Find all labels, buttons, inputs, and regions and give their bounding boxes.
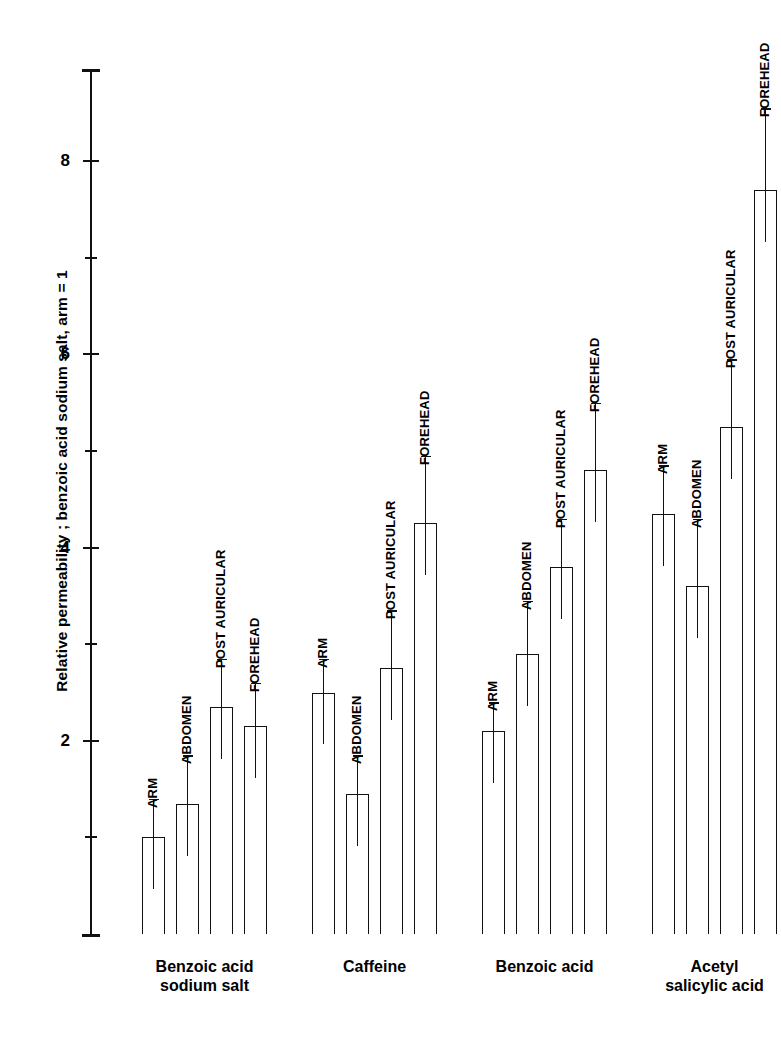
bar-3-2 (720, 427, 743, 934)
group-caption-1: Caffeine (290, 958, 460, 977)
bar-label-2-2: POST AURICULAR (553, 409, 568, 528)
bar-2-2 (550, 567, 573, 934)
y-tick-4 (83, 547, 99, 549)
y-tick-label-8: 8 (46, 152, 70, 169)
bar-label-0-2: POST AURICULAR (213, 549, 228, 668)
bar-label-0-3: FOREHEAD (247, 617, 262, 692)
bar-label-1-1: ABDOMEN (349, 696, 364, 765)
y-tick-label-6: 6 (46, 345, 70, 362)
group-caption-2: Benzoic acid (460, 958, 630, 977)
y-tick-label-2: 2 (46, 732, 70, 749)
y-tick-3 (85, 643, 97, 645)
error-bar-1-3 (425, 456, 427, 576)
error-bar-2-2 (561, 519, 563, 619)
bar-label-1-0: ARM (315, 637, 330, 667)
error-bar-1-2 (391, 610, 393, 720)
y-tick-8 (83, 160, 99, 162)
error-bar-1-1 (357, 755, 359, 846)
bar-label-0-1: ABDOMEN (179, 696, 194, 765)
bar-label-3-1: ABDOMEN (689, 459, 704, 528)
bar-3-0 (652, 514, 675, 934)
error-bar-1-0 (323, 659, 325, 745)
bar-label-0-0: ARM (145, 778, 160, 808)
error-bar-2-0 (493, 702, 495, 783)
y-tick-6 (83, 353, 99, 355)
error-bar-3-3 (765, 108, 767, 242)
y-tick-5 (85, 450, 97, 452)
error-bar-3-2 (731, 359, 733, 479)
y-axis-top-cap (82, 69, 100, 72)
bar-1-3 (414, 523, 437, 934)
bar-label-2-0: ARM (485, 681, 500, 711)
error-bar-0-2 (221, 659, 223, 759)
bar-2-3 (584, 470, 607, 934)
y-tick-1 (85, 836, 97, 838)
y-axis-line (90, 70, 92, 936)
y-tick-label-4: 4 (46, 539, 70, 556)
group-caption-0: Benzoic acid sodium salt (120, 958, 290, 996)
bar-label-3-3: FOREHEAD (757, 43, 772, 118)
y-axis-bottom-cap (82, 934, 100, 937)
bar-label-2-1: ABDOMEN (519, 541, 534, 610)
y-tick-7 (85, 257, 97, 259)
bar-3-1 (686, 586, 709, 934)
error-bar-0-1 (187, 755, 189, 855)
bar-3-3 (754, 190, 777, 934)
bar-label-1-3: FOREHEAD (417, 390, 432, 465)
error-bar-2-1 (527, 601, 529, 706)
error-bar-3-1 (697, 519, 699, 639)
bar-label-3-0: ARM (655, 444, 670, 474)
y-tick-2 (83, 740, 99, 742)
bar-label-3-2: POST AURICULAR (723, 250, 738, 369)
error-bar-0-0 (153, 799, 155, 890)
bar-label-2-3: FOREHEAD (587, 337, 602, 412)
group-caption-3: Acetyl salicylic acid (630, 958, 781, 996)
error-bar-0-3 (255, 683, 257, 778)
bar-label-1-2: POST AURICULAR (383, 501, 398, 620)
error-bar-3-0 (663, 465, 665, 565)
error-bar-2-3 (595, 403, 597, 523)
